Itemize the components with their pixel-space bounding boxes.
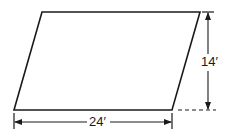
height-dimension-label: 14′ xyxy=(200,55,219,69)
base-dimension-label: 24′ xyxy=(88,115,107,129)
parallelogram-shape xyxy=(14,12,200,110)
parallelogram-diagram xyxy=(0,0,233,139)
